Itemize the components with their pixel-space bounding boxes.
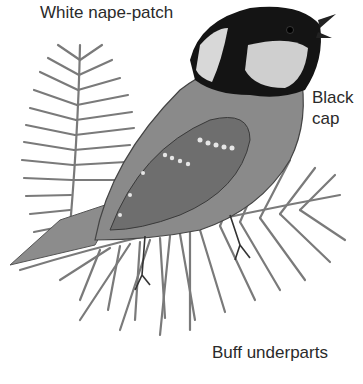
label-black-cap-line1: Black	[312, 87, 354, 108]
label-buff-underparts: Buff underparts	[212, 343, 328, 363]
label-white-nape-patch: White nape-patch	[40, 3, 173, 23]
label-black-cap: Black cap	[312, 87, 354, 129]
label-black-cap-line2: cap	[312, 108, 354, 129]
eye	[287, 27, 294, 34]
bird-illustration	[0, 0, 363, 384]
